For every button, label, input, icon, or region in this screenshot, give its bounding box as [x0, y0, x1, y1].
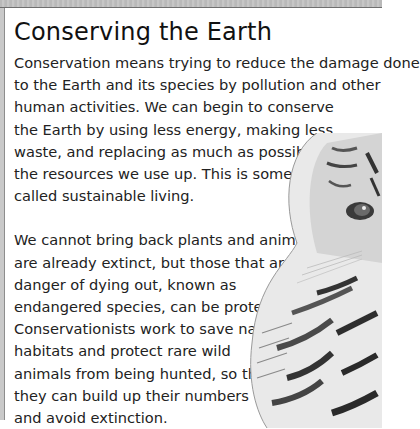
document-page: Conserving the Earth Conservation means …	[5, 8, 382, 420]
page-top-edge	[0, 0, 382, 8]
text-line: human activities. We can begin to conser…	[14, 96, 386, 118]
page-title: Conserving the Earth	[14, 18, 272, 46]
tiger-illustration	[247, 133, 382, 428]
text-line: Conservation means trying to reduce the …	[14, 52, 386, 74]
text-line: to the Earth and its species by pollutio…	[14, 74, 386, 96]
